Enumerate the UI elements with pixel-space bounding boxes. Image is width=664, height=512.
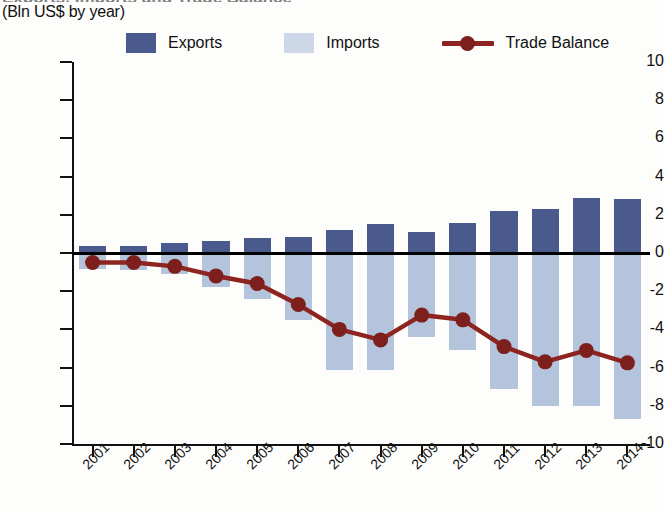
trade-balance-point bbox=[497, 339, 512, 354]
legend-item-exports: Exports bbox=[126, 32, 222, 54]
legend-label-trade-balance: Trade Balance bbox=[506, 34, 609, 52]
y-tick-mark bbox=[60, 176, 72, 178]
chart-subtitle: (Bln US$ by year) bbox=[2, 3, 125, 21]
y-tick-mark bbox=[60, 328, 72, 330]
trade-balance-point bbox=[85, 255, 100, 270]
legend-item-imports: Imports bbox=[284, 32, 379, 54]
legend-swatch-imports bbox=[284, 33, 314, 53]
trade-balance-point bbox=[250, 276, 265, 291]
legend-line-marker-icon bbox=[442, 33, 494, 53]
y-tick-mark bbox=[60, 99, 72, 101]
chart-legend: Exports Imports Trade Balance bbox=[126, 32, 609, 54]
y-tick-mark bbox=[60, 290, 72, 292]
y-tick-mark bbox=[60, 61, 72, 63]
trade-balance-point bbox=[291, 297, 306, 312]
legend-swatch-exports bbox=[126, 33, 156, 53]
legend-label-imports: Imports bbox=[326, 34, 379, 52]
trade-balance-point bbox=[332, 322, 347, 337]
trade-balance-chart: Exports, Imports and Trade Balance (Bln … bbox=[0, 0, 664, 512]
trade-balance-point bbox=[579, 343, 594, 358]
y-tick-mark bbox=[60, 367, 72, 369]
trade-balance-point bbox=[455, 312, 470, 327]
trade-balance-point bbox=[373, 332, 388, 347]
y-tick-mark bbox=[60, 443, 72, 445]
chart-title-cropped: Exports, Imports and Trade Balance bbox=[2, 0, 662, 2]
trade-balance-point bbox=[620, 355, 635, 370]
y-tick-mark bbox=[60, 137, 72, 139]
x-axis-line bbox=[72, 444, 650, 446]
trade-balance-point bbox=[167, 259, 182, 274]
y-tick-mark bbox=[60, 405, 72, 407]
trade-balance-point bbox=[414, 308, 429, 323]
y-tick-mark bbox=[60, 252, 72, 254]
legend-item-trade-balance: Trade Balance bbox=[442, 32, 609, 54]
y-tick-mark bbox=[60, 214, 72, 216]
legend-label-exports: Exports bbox=[168, 34, 222, 52]
trade-balance-point bbox=[209, 268, 224, 283]
trade-balance-point bbox=[538, 354, 553, 369]
trade-balance-line-layer bbox=[72, 62, 648, 444]
trade-balance-line bbox=[93, 263, 628, 363]
trade-balance-point bbox=[126, 255, 141, 270]
